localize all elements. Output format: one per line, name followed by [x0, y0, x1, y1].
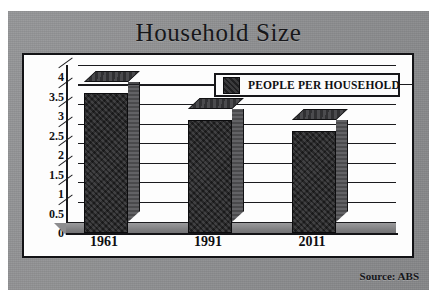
- chart-screenshot: Household Size 4 3.5 3 2.5 2 1.5 1 0.5 0: [0, 0, 437, 297]
- chart-legend[interactable]: PEOPLE PER HOUSEHOLD: [214, 73, 400, 97]
- legend-swatch-icon: [223, 77, 240, 94]
- y-tick-3: 3: [24, 110, 64, 122]
- y-tick-1: 1: [24, 188, 64, 200]
- source-note: Source: ABS: [360, 270, 419, 282]
- plot-inner: 4 3.5 3 2.5 2 1.5 1 0.5 0: [24, 55, 412, 256]
- plot-area: 4 3.5 3 2.5 2 1.5 1 0.5 0: [22, 53, 414, 258]
- y-tick-0-5: 0.5: [24, 208, 64, 220]
- y-tick-1-5: 1.5: [24, 169, 64, 181]
- chart-panel: Household Size 4 3.5 3 2.5 2 1.5 1 0.5 0: [8, 11, 429, 290]
- bar-2011-top-face: [292, 109, 348, 120]
- bar-1961[interactable]: [84, 55, 128, 233]
- bar-1991-side-face: [232, 109, 244, 222]
- bar-2011-front-face: [292, 131, 336, 233]
- legend-leader-line-left: [78, 84, 214, 85]
- bar-1991-front-face: [188, 120, 232, 233]
- y-tick-2-5: 2.5: [24, 130, 64, 142]
- legend-leader-line-right: [400, 84, 412, 85]
- bar-1961-side-face: [128, 82, 140, 222]
- y-tick-2: 2: [24, 149, 64, 161]
- page-title: Household Size: [8, 18, 429, 48]
- bar-1991-top-face: [188, 98, 244, 109]
- x-label-1961: 1961: [69, 233, 139, 251]
- x-label-1991: 1991: [173, 233, 243, 251]
- bar-2011-side-face: [336, 120, 348, 222]
- x-label-2011: 2011: [277, 233, 347, 251]
- bar-1961-top-face: [84, 71, 140, 82]
- y-tick-3-5: 3.5: [24, 91, 64, 103]
- bar-1961-front-face: [84, 93, 128, 233]
- x-axis-labels: 1961 1991 2011: [22, 233, 414, 255]
- y-tick-4: 4: [24, 71, 64, 83]
- legend-label: PEOPLE PER HOUSEHOLD: [248, 79, 400, 91]
